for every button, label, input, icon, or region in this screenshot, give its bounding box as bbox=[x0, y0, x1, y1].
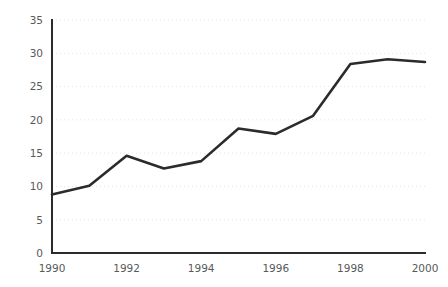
y-tick-label: 30 bbox=[30, 47, 43, 59]
x-tick-label: 1994 bbox=[188, 262, 215, 274]
y-tick-label: 20 bbox=[30, 114, 43, 126]
x-axis-tick-labels: 199019921994199619982000 bbox=[39, 262, 439, 274]
x-tick-label: 1998 bbox=[337, 262, 364, 274]
y-tick-label: 35 bbox=[30, 14, 43, 26]
x-tick-label: 1992 bbox=[113, 262, 140, 274]
x-tick-label: 1996 bbox=[262, 262, 289, 274]
gridlines bbox=[52, 20, 427, 220]
y-tick-label: 15 bbox=[30, 147, 43, 159]
y-axis-tick-labels: 05101520253035 bbox=[30, 14, 43, 259]
data-series-line bbox=[52, 59, 425, 194]
x-tick-label: 2000 bbox=[412, 262, 439, 274]
chart-canvas: 05101520253035 199019921994199619982000 bbox=[0, 0, 448, 287]
x-tick-label: 1990 bbox=[39, 262, 66, 274]
y-tick-label: 25 bbox=[30, 80, 43, 92]
y-tick-label: 0 bbox=[36, 247, 43, 259]
y-tick-label: 10 bbox=[30, 180, 43, 192]
line-chart-figure: 05101520253035 199019921994199619982000 bbox=[0, 0, 448, 287]
y-tick-label: 5 bbox=[36, 214, 43, 226]
